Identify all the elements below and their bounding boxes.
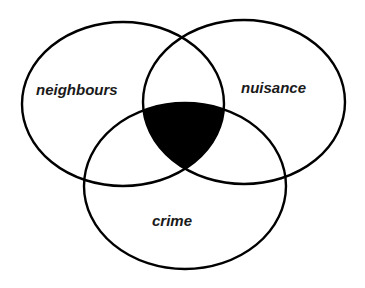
- crime-label: crime: [152, 212, 192, 229]
- venn-diagram: neighbours nuisance crime: [0, 0, 365, 288]
- nuisance-label: nuisance: [241, 79, 306, 96]
- nuisance-circle: [143, 20, 345, 184]
- neighbours-label: neighbours: [36, 81, 118, 98]
